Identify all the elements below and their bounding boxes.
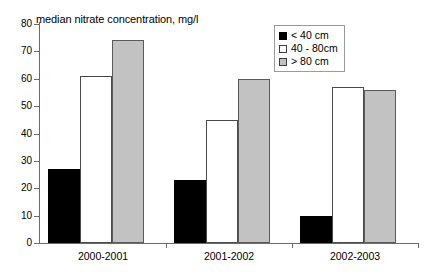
bar <box>332 87 364 243</box>
y-axis-tick-label: 40 <box>0 129 32 139</box>
legend-item: < 40 cm <box>279 29 338 42</box>
x-axis-separator <box>418 243 419 248</box>
y-axis-tick-label: 30 <box>0 156 32 166</box>
x-axis-separator <box>292 243 293 248</box>
x-axis-category-label: 2002-2003 <box>292 250 418 262</box>
y-axis-tick <box>34 106 39 107</box>
y-axis-tick <box>34 79 39 80</box>
bar <box>112 40 144 243</box>
y-axis-tick <box>34 161 39 162</box>
legend: < 40 cm40 - 80cm> 80 cm <box>274 25 345 72</box>
bar <box>48 169 80 243</box>
y-axis-tick <box>34 51 39 52</box>
x-axis-category-label: 2001-2002 <box>166 250 292 262</box>
nitrate-concentration-bar-chart: median nitrate concentration, mg/l 01020… <box>0 0 430 272</box>
legend-item: > 80 cm <box>279 55 338 68</box>
y-axis-tick <box>34 216 39 217</box>
y-axis-tick-label: 70 <box>0 46 32 56</box>
y-axis-tick-label: 80 <box>0 19 32 29</box>
legend-swatch-icon <box>279 32 287 40</box>
y-axis-tick-label: 60 <box>0 74 32 84</box>
legend-item-label: < 40 cm <box>291 30 329 41</box>
legend-swatch-icon <box>279 45 287 53</box>
legend-item-label: > 80 cm <box>291 56 329 67</box>
bar <box>206 120 238 243</box>
bar <box>238 79 270 243</box>
x-axis-category-label: 2000-2001 <box>40 250 166 262</box>
bar <box>174 180 206 243</box>
y-axis-tick <box>34 134 39 135</box>
y-axis-tick <box>34 188 39 189</box>
y-axis-tick <box>34 24 39 25</box>
y-axis-tick-label: 50 <box>0 101 32 111</box>
legend-item-label: 40 - 80cm <box>291 43 338 54</box>
y-axis-tick-label: 20 <box>0 183 32 193</box>
bar <box>300 216 332 243</box>
x-axis-line <box>39 243 419 244</box>
bar <box>80 76 112 243</box>
y-axis-tick-label: 0 <box>0 238 32 248</box>
x-axis-separator <box>166 243 167 248</box>
bars-layer <box>40 24 418 243</box>
bar <box>364 90 396 243</box>
y-axis-tick-label: 10 <box>0 211 32 221</box>
legend-swatch-icon <box>279 58 287 66</box>
plot-area <box>40 24 418 243</box>
legend-item: 40 - 80cm <box>279 42 338 55</box>
y-axis-tick <box>34 243 39 244</box>
